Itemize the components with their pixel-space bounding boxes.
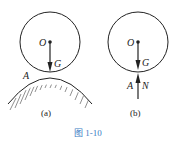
figure-canvas: O G A (a) O G A N (b) 图 1-10 [0, 0, 182, 146]
support-surface [8, 78, 92, 104]
panel-label: (b) [130, 108, 141, 118]
normal-label: N [141, 80, 150, 91]
center-label: O [127, 37, 134, 48]
panel-a: O G A (a) [8, 12, 92, 118]
panel-label: (a) [41, 108, 51, 118]
panel-b: O G A N (b) [108, 12, 168, 118]
contact-label: A [126, 80, 134, 91]
weight-arrow-head [136, 60, 141, 70]
normal-arrow-head [136, 73, 141, 83]
figure-caption: 图 1-10 [74, 128, 102, 138]
contact-label: A [22, 70, 30, 81]
weight-arrow-head [48, 62, 53, 72]
center-label: O [39, 37, 46, 48]
weight-label: G [54, 58, 61, 69]
weight-label: G [142, 57, 149, 68]
